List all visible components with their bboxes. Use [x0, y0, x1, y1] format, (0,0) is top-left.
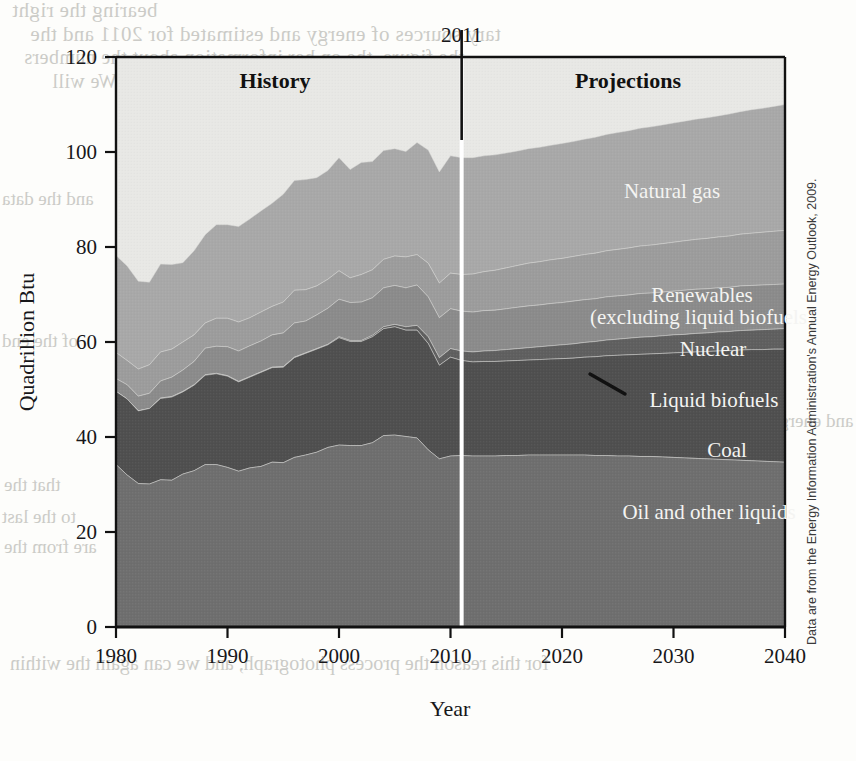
- history-region-label: History: [240, 68, 311, 93]
- x-tick-label-1990: 1990: [207, 644, 249, 668]
- chart-svg: 020406080100120 198019902000201020202030…: [0, 0, 856, 761]
- x-tick-label-2030: 2030: [653, 644, 695, 668]
- y-tick-label-0: 0: [87, 615, 98, 639]
- x-axis-ticks: 1980199020002010202020302040: [95, 627, 806, 668]
- x-tick-label-1980: 1980: [95, 644, 137, 668]
- y-tick-label-120: 120: [66, 45, 98, 69]
- x-axis-title: Year: [430, 696, 471, 721]
- x-tick-label-2000: 2000: [318, 644, 360, 668]
- x-tick-label-2040: 2040: [764, 644, 806, 668]
- y-tick-label-80: 80: [76, 235, 97, 259]
- y-tick-label-100: 100: [66, 140, 98, 164]
- stacked-area-chart: 020406080100120 198019902000201020202030…: [0, 0, 856, 761]
- x-tick-label-2020: 2020: [541, 644, 583, 668]
- y-axis-title: Quadrillion Btu: [14, 273, 39, 412]
- source-note: Data are from the Energy Information Adm…: [805, 178, 819, 645]
- y-axis-ticks: 020406080100120: [66, 45, 117, 639]
- divider-year-label: 2011: [441, 23, 482, 47]
- series-label-natural-gas: Natural gas: [624, 179, 720, 203]
- series-label-renewables-qualifier: (excluding liquid biofuels): [590, 305, 814, 329]
- y-tick-label-60: 60: [76, 330, 97, 354]
- y-tick-label-40: 40: [76, 425, 97, 449]
- y-tick-label-20: 20: [76, 520, 97, 544]
- series-label-nuclear: Nuclear: [680, 337, 746, 361]
- series-label-oil-and-other-liquids: Oil and other liquids: [622, 500, 795, 524]
- series-label-renewables: Renewables: [651, 283, 752, 307]
- projections-region-label: Projections: [575, 68, 681, 93]
- series-label-liquid-biofuels: Liquid biofuels: [650, 388, 779, 412]
- x-tick-label-2010: 2010: [430, 644, 472, 668]
- series-label-coal: Coal: [707, 438, 747, 462]
